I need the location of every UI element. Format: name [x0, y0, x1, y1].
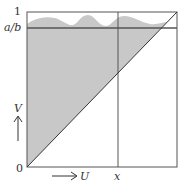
label-u-axis: U	[80, 170, 90, 183]
label-one: 1	[14, 5, 21, 18]
shaded-region	[27, 15, 167, 167]
label-threshold: a/b	[4, 21, 21, 34]
v-axis-arrow-icon	[14, 116, 22, 141]
label-x-marker: x	[114, 170, 121, 183]
diagram-canvas: 1 a/b 0 x U V	[0, 0, 189, 194]
u-axis-arrow-icon	[52, 172, 77, 180]
label-v-axis: V	[14, 102, 23, 115]
label-origin: 0	[16, 162, 23, 175]
